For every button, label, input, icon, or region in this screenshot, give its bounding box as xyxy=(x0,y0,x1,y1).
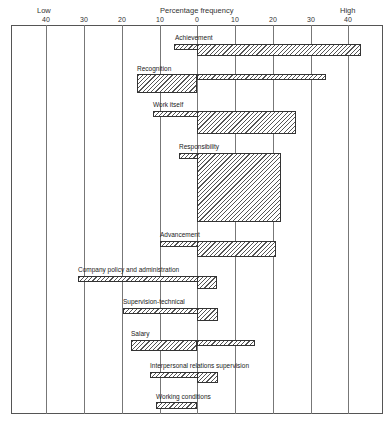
x-tick-label: 30 xyxy=(307,16,315,23)
factor-bar xyxy=(156,402,197,409)
x-tick-label: 10 xyxy=(231,16,239,23)
factor-bar xyxy=(197,372,218,383)
axis-title: Percentage frequency xyxy=(160,6,233,15)
factor-bar xyxy=(137,74,197,93)
factor-bar xyxy=(197,44,361,56)
factor-bar xyxy=(197,276,217,289)
factor-label: Company policy and administration xyxy=(78,266,179,273)
x-tick-label: 20 xyxy=(269,16,277,23)
gridline xyxy=(311,25,312,414)
x-tick-label: 40 xyxy=(42,16,50,23)
x-tick-label: 10 xyxy=(156,16,164,23)
x-tick-label: 30 xyxy=(80,16,88,23)
factor-label: Recognition xyxy=(137,65,171,72)
gridline xyxy=(122,25,123,414)
factor-bar xyxy=(197,340,255,346)
factor-label: Working conditions xyxy=(156,393,211,400)
factor-label: Interpersonal relations supervision xyxy=(150,362,249,369)
gridline xyxy=(348,25,349,414)
factor-bar xyxy=(131,340,197,351)
factor-bar xyxy=(197,111,296,134)
factor-label: Work itself xyxy=(153,101,183,108)
factor-bar xyxy=(197,153,281,222)
factor-label: Responsibility xyxy=(179,143,219,150)
factor-label: Salary xyxy=(131,330,149,337)
factor-bar xyxy=(197,241,276,257)
x-tick-label: 20 xyxy=(118,16,126,23)
gridline xyxy=(84,25,85,414)
gridline xyxy=(46,25,47,414)
x-tick-label: 0 xyxy=(195,16,199,23)
factor-label: Achievement xyxy=(175,34,213,41)
factor-label: Advancement xyxy=(160,231,200,238)
x-tick-label: 40 xyxy=(344,16,352,23)
factor-bar xyxy=(197,74,326,80)
factor-label: Supervision-technical xyxy=(123,298,185,305)
low-label: Low xyxy=(37,6,51,15)
high-label: High xyxy=(340,6,355,15)
factor-bar xyxy=(197,308,218,321)
